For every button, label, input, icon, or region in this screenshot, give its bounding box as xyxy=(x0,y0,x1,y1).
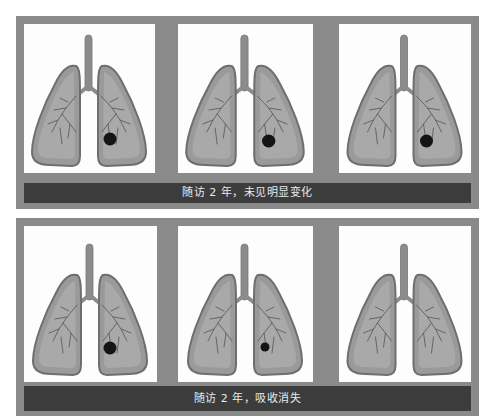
lung-illustration-with-nodule-icon xyxy=(178,24,313,173)
lung-panel-row2-3 xyxy=(339,226,471,382)
lung-panel-row1-2 xyxy=(178,24,313,173)
lung-illustration-with-nodule-icon xyxy=(24,226,157,382)
row-no-change: 随访 2 年，未见明显变化 xyxy=(16,16,479,209)
lung-panel-row2-1 xyxy=(24,226,157,382)
nodule-icon xyxy=(104,342,117,355)
small-nodule-icon xyxy=(261,343,270,352)
lung-panel-row2-2 xyxy=(178,226,313,382)
lung-illustration-clear-icon xyxy=(339,226,471,382)
lung-panel-row1-1 xyxy=(24,24,155,173)
lung-illustration-with-small-nodule-icon xyxy=(178,226,313,382)
row-resolved: 随访 2 年，吸收消失 xyxy=(16,218,479,416)
lung-illustration-with-nodule-icon xyxy=(24,24,155,173)
nodule-icon xyxy=(420,135,433,148)
caption-no-change: 随访 2 年，未见明显变化 xyxy=(24,183,471,203)
nodule-icon xyxy=(262,135,275,148)
nodule-icon xyxy=(104,133,117,146)
lung-illustration-with-nodule-icon xyxy=(339,24,471,173)
lung-panel-row1-3 xyxy=(339,24,471,173)
caption-resolved: 随访 2 年，吸收消失 xyxy=(24,386,471,411)
